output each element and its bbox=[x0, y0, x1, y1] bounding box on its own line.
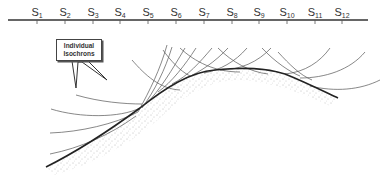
station-label-s1: S1 bbox=[31, 6, 42, 19]
station-label-s8: S8 bbox=[226, 6, 237, 19]
station-label-s11: S11 bbox=[308, 6, 323, 19]
station-label-s4: S4 bbox=[114, 6, 125, 19]
isochron-diagram bbox=[0, 0, 388, 178]
station-label-s9: S9 bbox=[253, 6, 264, 19]
callout-line-1: Individual bbox=[57, 42, 101, 50]
stippled-zone bbox=[46, 68, 338, 175]
station-label-s5: S5 bbox=[142, 6, 153, 19]
station-label-s3: S3 bbox=[87, 6, 98, 19]
station-label-s12: S12 bbox=[334, 6, 349, 19]
station-label-s2: S2 bbox=[59, 6, 70, 19]
isochron-callout: Individual Isochrons bbox=[56, 39, 102, 61]
station-label-s6: S6 bbox=[170, 6, 181, 19]
callout-line-2: Isochrons bbox=[57, 50, 101, 58]
station-label-s7: S7 bbox=[198, 6, 209, 19]
station-label-s10: S10 bbox=[279, 6, 294, 19]
callout-pointer bbox=[72, 61, 107, 88]
